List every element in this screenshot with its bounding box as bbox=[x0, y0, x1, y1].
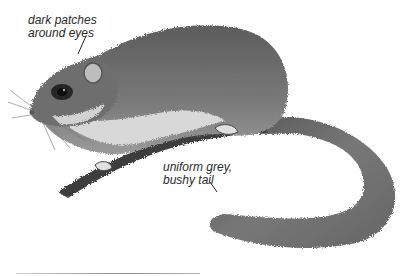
eye bbox=[57, 88, 67, 96]
ear bbox=[84, 63, 102, 83]
bottom-divider bbox=[16, 273, 200, 274]
annotation-line: around eyes bbox=[28, 27, 97, 40]
annotation-tail: uniform grey, bushy tail bbox=[163, 161, 232, 187]
annotation-line: bushy tail bbox=[163, 174, 232, 187]
bushy-tail bbox=[210, 117, 395, 248]
dormouse-illustration bbox=[0, 0, 414, 276]
illustration-figure: dark patches around eyes uniform grey, b… bbox=[0, 0, 414, 276]
annotation-eye-patches: dark patches around eyes bbox=[28, 14, 97, 40]
